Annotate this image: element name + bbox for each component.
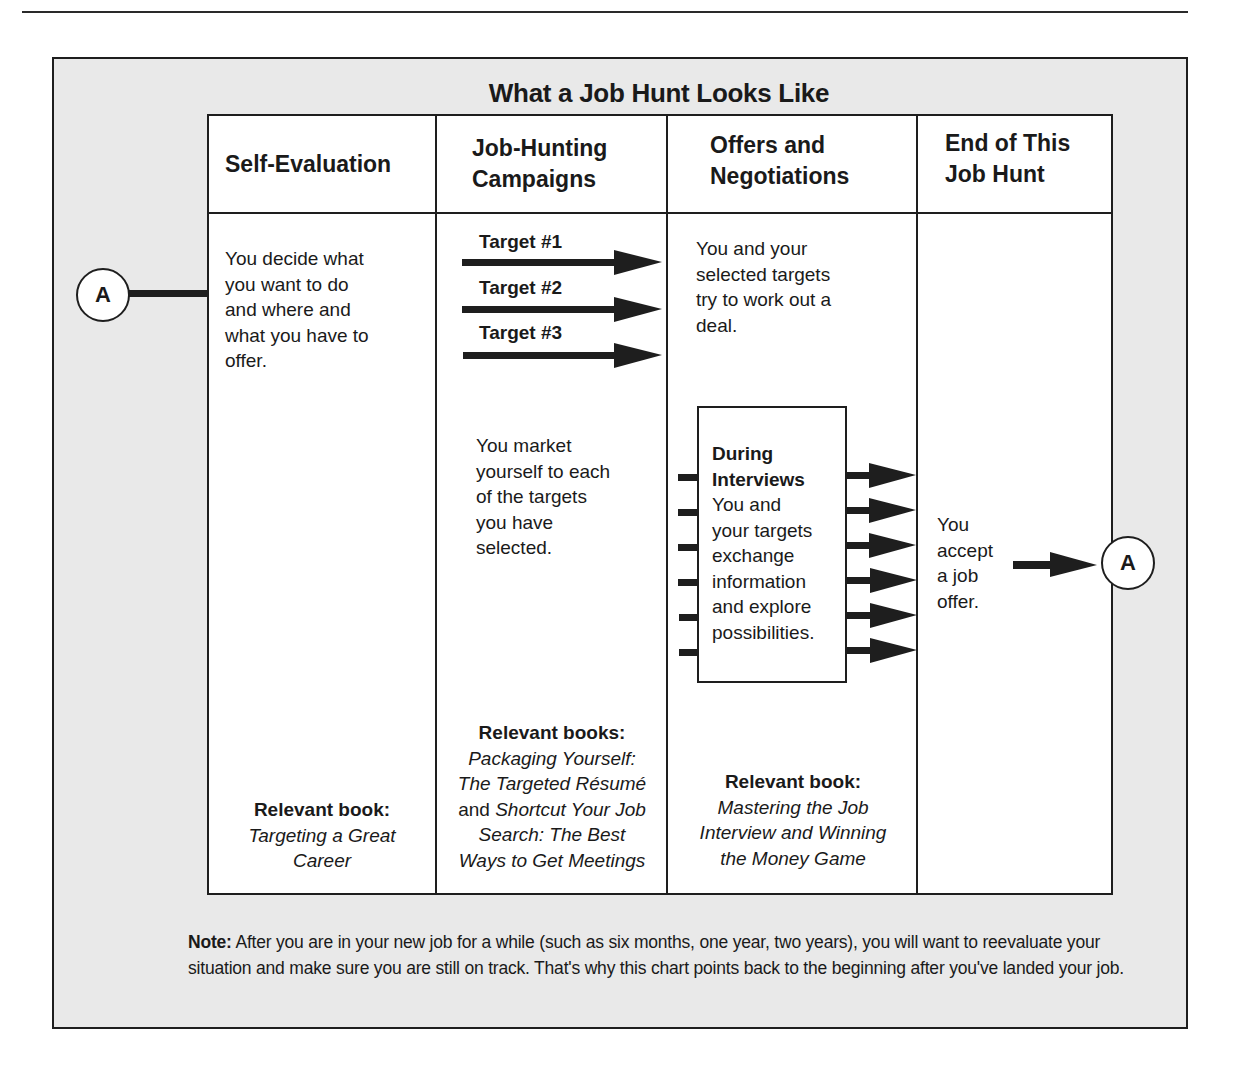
note-label: Note: xyxy=(188,932,232,952)
target-arrow-2 xyxy=(462,297,662,322)
accept-offer-arrow xyxy=(1013,552,1097,577)
note-text: After you are in your new job for a whil… xyxy=(188,932,1124,978)
end-connector-a: A xyxy=(1101,536,1155,590)
interview-inbound-stubs xyxy=(678,474,699,656)
diagram-note: Note: After you are in your new job for … xyxy=(188,930,1128,981)
target-arrow-1 xyxy=(462,250,662,275)
interview-outbound-arrows xyxy=(846,463,917,663)
start-connector-line xyxy=(128,290,208,297)
start-connector-a: A xyxy=(76,268,130,322)
target-arrow-3 xyxy=(463,343,662,368)
diagram-arrows xyxy=(0,0,1240,1067)
